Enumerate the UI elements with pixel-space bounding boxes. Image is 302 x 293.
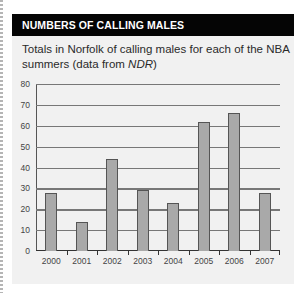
gridline (36, 84, 280, 85)
dotted-border (0, 0, 3, 293)
subtitle-suffix: ) (153, 58, 157, 70)
bar-2001 (76, 222, 88, 251)
x-tick (279, 251, 280, 255)
bar-2002 (106, 159, 118, 251)
subtitle-source: NDR (128, 58, 153, 70)
y-tick-label: 0 (10, 246, 30, 256)
y-tick-label: 20 (10, 204, 30, 214)
gridline (36, 188, 280, 189)
bar-2006 (228, 113, 240, 251)
x-tick-label: 2002 (97, 256, 127, 266)
y-tick-label: 70 (10, 100, 30, 110)
x-tick (189, 251, 190, 255)
bar-2004 (167, 203, 179, 251)
x-tick (128, 251, 129, 255)
x-tick-label: 2003 (128, 256, 158, 266)
x-tick (250, 251, 251, 255)
bar-2005 (198, 122, 210, 251)
gridline (36, 209, 280, 210)
x-tick-label: 2005 (189, 256, 219, 266)
bar-2000 (45, 193, 57, 251)
x-tick-label: 2007 (250, 256, 280, 266)
x-tick (97, 251, 98, 255)
x-tick-label: 2001 (67, 256, 97, 266)
bar-2003 (137, 190, 149, 251)
x-tick (67, 251, 68, 255)
bar-2007 (259, 193, 271, 251)
y-tick-label: 60 (10, 121, 30, 131)
x-tick-label: 2000 (36, 256, 66, 266)
panel-title: NUMBERS OF CALLING MALES (22, 19, 184, 31)
chart-panel: NUMBERS OF CALLING MALES Totals in Norfo… (12, 14, 294, 284)
x-tick (158, 251, 159, 255)
chart-subtitle: Totals in Norfolk of calling males for e… (22, 42, 292, 72)
bar-chart-plot: 0102030405060708020002001200220032004200… (36, 84, 280, 251)
y-tick-label: 10 (10, 225, 30, 235)
y-tick-label: 40 (10, 163, 30, 173)
x-tick-label: 2006 (219, 256, 249, 266)
gridline (36, 147, 280, 148)
gridline (36, 168, 280, 169)
gridline (36, 230, 280, 231)
y-tick-label: 30 (10, 183, 30, 193)
x-tick (219, 251, 220, 255)
y-tick-label: 80 (10, 79, 30, 89)
gridline (36, 126, 280, 127)
y-tick-label: 50 (10, 142, 30, 152)
subtitle-prefix: (data from (72, 58, 128, 70)
gridline (36, 105, 280, 106)
panel-header: NUMBERS OF CALLING MALES (12, 14, 294, 36)
x-tick-label: 2004 (158, 256, 188, 266)
